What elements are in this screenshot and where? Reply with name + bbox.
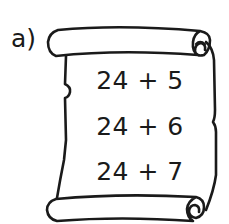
scroll-top-roll bbox=[48, 27, 210, 56]
expression-3: 24 + 7 bbox=[72, 149, 208, 195]
expression-1: 24 + 5 bbox=[72, 58, 208, 104]
expression-list: 24 + 5 24 + 6 24 + 7 bbox=[72, 58, 208, 195]
scroll-bottom-roll bbox=[47, 195, 204, 221]
scroll-left-edge bbox=[57, 56, 70, 198]
expression-2: 24 + 6 bbox=[72, 104, 208, 150]
